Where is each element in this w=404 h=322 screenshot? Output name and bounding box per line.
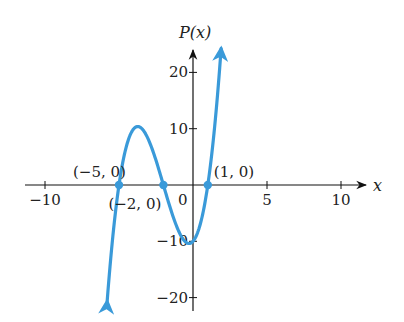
intercept-label: (−2, 0) [108,195,161,213]
intercept-label: (1, 0) [214,163,254,181]
intercept-point [159,181,167,189]
intercept-point [204,181,212,189]
y-tick-label: 10 [169,120,188,138]
x-tick-label: 10 [331,191,350,209]
x-tick-label: −10 [29,191,61,209]
x-axis-label: x [373,176,382,195]
y-tick-label: 20 [169,63,188,81]
x-intercepts: (−5, 0)(−2, 0)(1, 0) [73,163,254,213]
polynomial-graph: −10510 2010−10−20 x P(x) 0 (−5, 0)(−2, 0… [0,0,404,322]
y-tick-label: −20 [156,289,188,307]
intercept-point [115,181,123,189]
y-axis-label: P(x) [178,23,211,42]
x-tick-label: 5 [262,191,272,209]
intercept-label: (−5, 0) [73,163,126,181]
origin-label: 0 [178,191,188,209]
